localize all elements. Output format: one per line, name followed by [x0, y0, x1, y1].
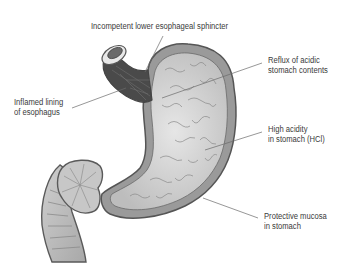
label-inflamed-lining: Inflamed lining of esophagus: [14, 97, 63, 117]
label-high-acidity: High acidity in stomach (HCl): [268, 124, 325, 144]
label-sphincter: Incompetent lower esophageal sphincter: [91, 21, 228, 31]
label-protective-mucosa: Protective mucosa in stomach: [264, 211, 327, 231]
label-reflux: Reflux of acidic stomach contents: [268, 55, 328, 75]
